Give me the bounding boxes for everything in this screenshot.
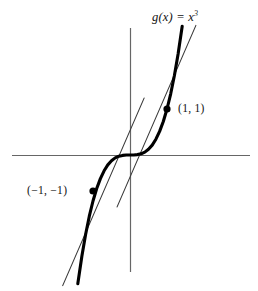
point-label-negative: (−1, −1) xyxy=(27,185,67,197)
function-label-prefix: g(x) = xyxy=(152,10,188,24)
cubic-function-plot xyxy=(0,0,258,291)
tangent-line-positive xyxy=(117,25,196,207)
function-label: g(x) = x3 xyxy=(152,11,198,24)
figure-container: g(x) = x3 (1, 1) (−1, −1) xyxy=(0,0,258,291)
point-label-positive: (1, 1) xyxy=(178,103,205,115)
function-label-exponent: 3 xyxy=(194,9,198,18)
point-marker-positive xyxy=(163,105,170,112)
point-marker-negative xyxy=(89,187,96,194)
tangent-line-negative xyxy=(63,98,144,286)
